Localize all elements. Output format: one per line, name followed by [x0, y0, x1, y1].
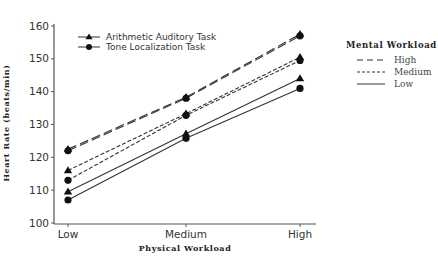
- x-tick-label: High: [288, 228, 312, 240]
- axes: 100110120130140150160LowMediumHigh: [29, 20, 316, 241]
- series-low-triangle: [64, 74, 304, 194]
- y-tick-label: 100: [29, 217, 49, 229]
- series-lines: [64, 30, 304, 204]
- y-tick-label: 110: [29, 184, 49, 196]
- y-axis-title: Heart Rate (beats/min): [1, 64, 11, 181]
- y-tick-label: 160: [29, 20, 49, 32]
- y-tick-label: 150: [29, 52, 49, 64]
- legend-mental-item: High: [357, 55, 416, 65]
- legend-task-item: Tone Localization Task: [78, 42, 206, 52]
- series-line: [68, 60, 300, 180]
- series-line: [68, 88, 300, 200]
- legend-mental-workload: Mental WorkloadHighMediumLow: [346, 40, 437, 89]
- legend-task-item: Arithmetic Auditory Task: [78, 32, 217, 42]
- circle-marker: [296, 57, 303, 64]
- legend-mental-item: Medium: [357, 67, 432, 77]
- triangle-marker: [296, 74, 304, 81]
- series-low-circle: [64, 85, 303, 204]
- circle-marker: [64, 147, 71, 154]
- y-tick-label: 120: [29, 151, 49, 163]
- circle-marker: [182, 135, 189, 142]
- y-tick-label: 140: [29, 85, 49, 97]
- legend-mental-title: Mental Workload: [346, 40, 437, 50]
- triangle-marker: [64, 166, 72, 173]
- x-axis-title: Physical Workload: [139, 243, 232, 253]
- circle-marker: [182, 95, 189, 102]
- legend-task-label: Tone Localization Task: [105, 42, 206, 52]
- legend-task: Arithmetic Auditory TaskTone Localizatio…: [78, 32, 217, 52]
- series-medium-circle: [64, 57, 303, 184]
- circle-marker: [64, 196, 71, 203]
- circle-marker: [296, 85, 303, 92]
- x-tick-label: Low: [58, 228, 79, 240]
- circle-marker: [64, 177, 71, 184]
- legend-mental-label: High: [394, 55, 416, 65]
- legend-mental-label: Medium: [394, 67, 432, 77]
- legend-mental-item: Low: [357, 79, 413, 89]
- circle-marker: [86, 44, 92, 50]
- triangle-marker: [85, 33, 92, 39]
- y-tick-label: 130: [29, 118, 49, 130]
- line-chart: 100110120130140150160LowMediumHigh Arith…: [0, 0, 438, 264]
- circle-marker: [182, 112, 189, 119]
- legend-task-label: Arithmetic Auditory Task: [106, 32, 217, 42]
- x-tick-label: Medium: [165, 228, 207, 240]
- triangle-marker: [64, 188, 72, 195]
- circle-marker: [296, 32, 303, 39]
- legend-mental-label: Low: [394, 79, 413, 89]
